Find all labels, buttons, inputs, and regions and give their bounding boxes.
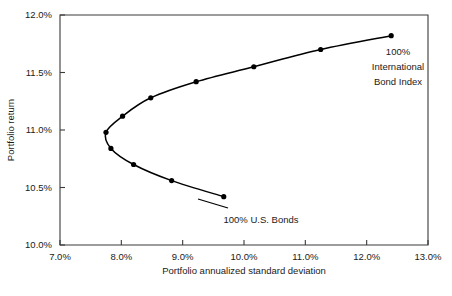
y-tick-label-1: 10.5%	[25, 182, 52, 193]
data-point-3	[108, 146, 113, 151]
data-point-8	[251, 64, 256, 69]
intl-bond-index-line-3: Bond Index	[374, 76, 422, 87]
y-tick-label-0: 10.0%	[25, 239, 52, 250]
frontier-data-points	[103, 33, 393, 199]
data-point-0	[221, 194, 226, 199]
data-point-2	[131, 162, 136, 167]
data-point-6	[148, 95, 153, 100]
intl-bond-index-annotation: 100% International Bond Index	[372, 46, 424, 87]
x-tick-label-0: 7.0%	[49, 251, 71, 262]
data-point-1	[169, 178, 174, 183]
x-tick-label-6: 13.0%	[415, 251, 442, 262]
y-tick-label-4: 12.0%	[25, 9, 52, 20]
y-tick-label-2: 11.0%	[26, 124, 53, 135]
chart-container: 10.0%10.5%11.0%11.5%12.0% 7.0%8.0%9.0%10…	[0, 0, 452, 296]
x-axis-tick-labels: 7.0%8.0%9.0%10.0%11.0%12.0%13.0%	[49, 251, 442, 262]
data-point-5	[120, 114, 125, 119]
us-bonds-leader-line	[198, 199, 228, 208]
frontier-curve	[105, 36, 391, 197]
plot-frame	[60, 15, 428, 245]
x-axis-ticks	[60, 240, 428, 245]
data-point-7	[194, 79, 199, 84]
x-tick-label-3: 10.0%	[231, 251, 258, 262]
data-point-9	[318, 47, 323, 52]
data-point-4	[103, 130, 108, 135]
us-bonds-label: 100% U.S. Bonds	[224, 214, 299, 225]
x-axis-title: Portfolio annualized standard deviation	[162, 265, 326, 276]
intl-bond-index-line-1: 100%	[386, 46, 411, 57]
y-axis-title: Portfolio return	[5, 99, 16, 161]
x-tick-label-1: 8.0%	[111, 251, 133, 262]
y-axis-ticks	[60, 15, 65, 245]
us-bonds-annotation: 100% U.S. Bonds	[224, 214, 299, 225]
efficient-frontier-chart: 10.0%10.5%11.0%11.5%12.0% 7.0%8.0%9.0%10…	[0, 0, 452, 296]
x-tick-label-2: 9.0%	[172, 251, 194, 262]
intl-bond-index-line-2: International	[372, 61, 424, 72]
x-tick-label-5: 12.0%	[353, 251, 380, 262]
x-tick-label-4: 11.0%	[292, 251, 319, 262]
data-point-10	[389, 33, 394, 38]
y-axis-tick-labels: 10.0%10.5%11.0%11.5%12.0%	[25, 9, 52, 250]
y-tick-label-3: 11.5%	[26, 67, 53, 78]
